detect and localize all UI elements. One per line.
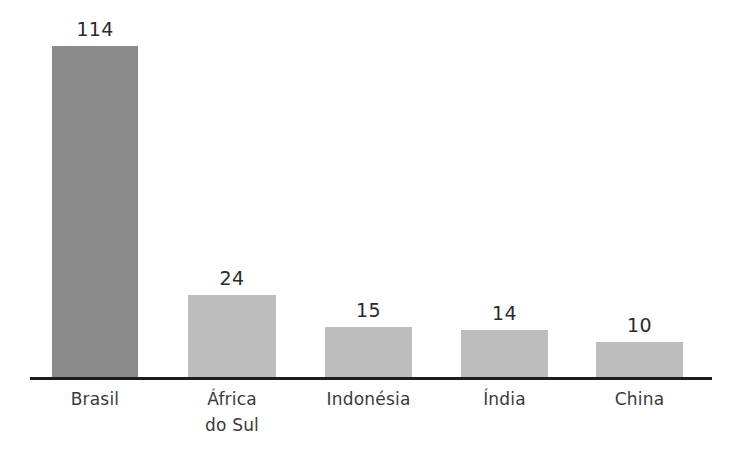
bar-brasil[interactable] bbox=[52, 46, 138, 377]
bar-value-indonesia: 15 bbox=[325, 301, 412, 320]
bar-indonesia[interactable] bbox=[325, 327, 412, 377]
bar-value-africa-do-sul: 24 bbox=[188, 269, 276, 288]
bar-label-brasil: Brasil bbox=[37, 386, 153, 412]
bar-value-brasil: 114 bbox=[52, 20, 138, 39]
bar-label-africa-do-sul: África do Sul bbox=[174, 386, 290, 438]
bar-china[interactable] bbox=[596, 342, 683, 377]
plot-area: 114 Brasil 24 África do Sul 15 Indonésia… bbox=[0, 0, 740, 453]
bar-value-china: 10 bbox=[596, 316, 683, 335]
bar-africa-do-sul[interactable] bbox=[188, 295, 276, 377]
x-axis-baseline bbox=[30, 377, 712, 380]
bar-value-india: 14 bbox=[461, 304, 548, 323]
bar-label-india: Índia bbox=[446, 386, 563, 412]
bar-label-indonesia: Indonésia bbox=[310, 386, 427, 412]
bar-chart: 114 Brasil 24 África do Sul 15 Indonésia… bbox=[0, 0, 740, 453]
bar-label-china: China bbox=[581, 386, 698, 412]
bar-india[interactable] bbox=[461, 330, 548, 377]
